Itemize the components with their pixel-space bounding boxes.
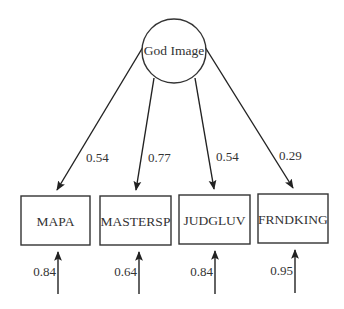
loading-label-mapa: 0.54 — [86, 150, 109, 165]
indicator-label: JUDGLUV — [183, 213, 245, 228]
indicator-frndking: FRNDKING — [258, 194, 328, 243]
loading-arrow-frndking — [205, 47, 293, 188]
indicator-label: FRNDKING — [258, 212, 328, 227]
error-label-mapa: 0.84 — [33, 264, 56, 279]
error-label-judgluv: 0.84 — [190, 264, 213, 279]
error-arrows — [58, 250, 295, 294]
indicator-label: MAPA — [37, 214, 75, 229]
loading-label-frndking: 0.29 — [279, 148, 302, 163]
loading-arrow-mastersp — [136, 78, 154, 190]
latent-label: God Image — [144, 43, 204, 58]
indicator-mastersp: MASTERSP — [100, 196, 171, 245]
indicator-label: MASTERSP — [101, 214, 171, 229]
loading-arrow-judgluv — [195, 78, 214, 189]
loading-label-mastersp: 0.77 — [148, 150, 171, 165]
indicator-mapa: MAPA — [21, 196, 90, 245]
error-label-frndking: 0.95 — [270, 263, 293, 278]
sem-diagram: 0.54 0.77 0.54 0.29 God Image MAPA MASTE… — [0, 0, 344, 309]
error-label-mastersp: 0.64 — [114, 264, 137, 279]
loading-arrow-mapa — [57, 47, 143, 190]
latent-node-god-image: God Image — [142, 19, 206, 83]
indicator-judgluv: JUDGLUV — [179, 195, 250, 244]
loading-label-judgluv: 0.54 — [216, 149, 239, 164]
